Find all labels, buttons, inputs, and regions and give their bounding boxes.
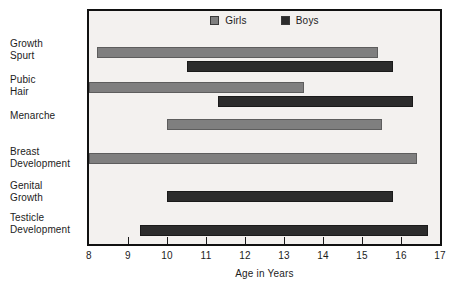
x-axis-tick-label: 16 xyxy=(395,250,407,261)
x-axis-tick-label: 9 xyxy=(125,250,131,261)
bar-boys xyxy=(187,61,394,72)
x-axis-tick-label: 17 xyxy=(434,250,446,261)
x-axis-tick-label: 8 xyxy=(86,250,92,261)
category-label: Genital Growth xyxy=(10,180,88,203)
category-axis-labels: Growth SpurtPubic HairMenarcheBreast Dev… xyxy=(0,0,86,246)
bar-girls xyxy=(97,47,378,58)
bar-chart: Growth SpurtPubic HairMenarcheBreast Dev… xyxy=(0,0,455,288)
x-axis-title: Age in Years xyxy=(87,268,442,279)
bar-boys xyxy=(140,225,429,236)
x-axis-tick-mark xyxy=(284,237,285,244)
bar-girls xyxy=(89,82,304,93)
x-axis-tick-label: 10 xyxy=(161,250,173,261)
category-label: Growth Spurt xyxy=(10,38,88,61)
x-axis-tick-mark xyxy=(206,237,207,244)
x-axis-tick-label: 15 xyxy=(356,250,368,261)
category-label: Testicle Development xyxy=(10,212,88,235)
category-label: Menarche xyxy=(10,110,88,122)
bar-boys xyxy=(167,191,393,202)
plot-area xyxy=(89,11,440,244)
x-axis-tick-mark xyxy=(167,237,168,244)
plot-frame: GirlsBoys xyxy=(87,9,442,246)
x-axis-tick-mark xyxy=(323,237,324,244)
x-axis-tick-label: 13 xyxy=(278,250,290,261)
x-axis-tick-label: 11 xyxy=(201,250,212,261)
x-axis-tick-mark xyxy=(128,237,129,244)
bar-girls xyxy=(167,119,382,130)
x-axis-tick-mark xyxy=(362,237,363,244)
bar-girls xyxy=(89,153,417,164)
x-axis-tick-mark xyxy=(245,237,246,244)
bar-boys xyxy=(218,96,413,107)
category-label: Pubic Hair xyxy=(10,74,88,97)
category-label: Breast Development xyxy=(10,146,88,169)
x-axis-tick-label: 12 xyxy=(239,250,251,261)
x-axis-tick-label: 14 xyxy=(317,250,329,261)
x-axis-tick-mark xyxy=(401,237,402,244)
